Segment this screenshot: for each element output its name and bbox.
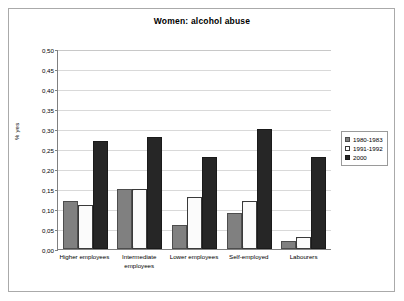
bar [202,157,217,249]
y-tick-label: 0,20 [42,167,54,174]
bar [172,225,187,249]
y-tick-label: 0,45 [42,67,54,74]
legend-swatch-icon [345,155,350,160]
bar [257,129,272,249]
bar [63,201,78,249]
legend-label: 1991-1992 [353,145,383,152]
bar-group [276,50,331,249]
bar-group [58,50,113,249]
bar-group [222,50,277,249]
x-axis-label: Higher employees [57,253,112,270]
legend-label: 2000 [353,154,367,161]
chart-legend: 1980-19831991-19922000 [341,131,388,166]
bar [227,213,242,249]
bar [281,241,296,249]
bar [132,189,147,249]
y-tick-mark [55,250,58,251]
y-tick-label: 0,40 [42,87,54,94]
bar [117,189,132,249]
x-axis-label: Self-employed [221,253,276,270]
x-axis-label: Intermediate employees [112,253,167,270]
legend-item[interactable]: 1991-1992 [345,144,383,153]
y-axis-title: % yes [14,80,20,140]
bar [187,197,202,249]
legend-item[interactable]: 2000 [345,153,383,162]
bar-group [167,50,222,249]
y-tick-label: 0,25 [42,147,54,154]
bar [242,201,257,249]
bar [311,157,326,249]
x-axis-labels: Higher employeesIntermediate employeesLo… [57,253,331,270]
bar-group [113,50,168,249]
y-tick-label: 0,10 [42,207,54,214]
y-tick-label: 0,00 [42,247,54,254]
bar-groups [58,50,331,249]
legend-item[interactable]: 1980-1983 [345,135,383,144]
x-axis-label: Lower employees [167,253,222,270]
plot-area: 0,000,050,100,150,200,250,300,350,400,45… [57,50,331,250]
legend-swatch-icon [345,137,350,142]
x-axis-label: Labourers [276,253,331,270]
y-tick-label: 0,15 [42,187,54,194]
chart-root: Women: alcohol abuse % yes 0,000,050,100… [0,0,404,301]
legend-label: 1980-1983 [353,136,383,143]
legend-swatch-icon [345,146,350,151]
bar [296,237,311,249]
y-tick-label: 0,35 [42,107,54,114]
chart-title: Women: alcohol abuse [0,16,404,26]
y-tick-label: 0,50 [42,47,54,54]
y-tick-label: 0,05 [42,227,54,234]
bar [147,137,162,249]
bar [93,141,108,249]
bar [78,205,93,249]
y-tick-label: 0,30 [42,127,54,134]
